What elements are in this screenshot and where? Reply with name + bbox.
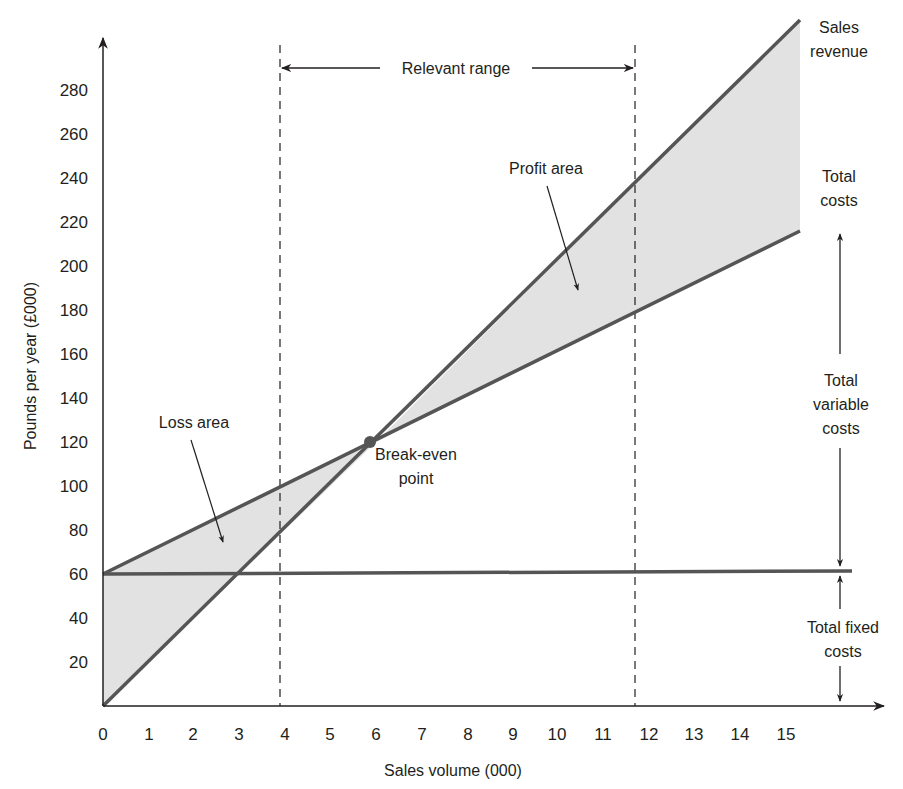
- x-tick-labels: 0 1 2 3 4 5 6 7 8 9 10 11 12 13 14 15: [98, 725, 795, 744]
- break-even-label: Break-even point: [375, 446, 457, 487]
- x-tick: 15: [777, 725, 796, 744]
- sales-revenue-label: Sales revenue: [810, 19, 868, 60]
- x-tick: 5: [325, 725, 334, 744]
- total-costs-label-line2: costs: [820, 192, 857, 209]
- total-variable-costs-indicator: Total variable costs: [813, 234, 869, 566]
- profit-area-label: Profit area: [509, 160, 583, 177]
- total-fixed-costs-indicator: Total fixed costs: [807, 576, 879, 701]
- break-even-label-line2: point: [399, 470, 434, 487]
- x-tick: 14: [731, 725, 750, 744]
- y-tick: 180: [60, 301, 88, 320]
- x-tick: 12: [640, 725, 659, 744]
- y-tick: 40: [69, 609, 88, 628]
- y-tick: 100: [60, 477, 88, 496]
- total-variable-costs-label-line2: variable: [813, 396, 869, 413]
- x-tick: 6: [371, 725, 380, 744]
- x-tick: 13: [685, 725, 704, 744]
- loss-area-label: Loss area: [159, 414, 229, 431]
- total-costs-label: Total costs: [820, 168, 857, 209]
- sales-revenue-line: [103, 20, 800, 706]
- y-tick: 240: [60, 169, 88, 188]
- x-tick: 10: [548, 725, 567, 744]
- x-tick: 11: [594, 725, 612, 744]
- y-tick: 80: [69, 521, 88, 540]
- total-variable-costs-label-line3: costs: [822, 420, 859, 437]
- x-tick: 8: [463, 725, 472, 744]
- y-axis-title: Pounds per year (£000): [22, 282, 39, 450]
- total-fixed-costs-label-line1: Total fixed: [807, 619, 879, 636]
- x-axis-title: Sales volume (000): [384, 762, 522, 779]
- y-tick: 200: [60, 257, 88, 276]
- y-tick-labels: 20 40 60 80 100 120 140 160 180 200 220 …: [60, 81, 88, 672]
- y-tick: 280: [60, 81, 88, 100]
- total-fixed-costs-label-line2: costs: [824, 643, 861, 660]
- total-variable-costs-label-line1: Total: [824, 372, 858, 389]
- sales-revenue-label-line2: revenue: [810, 43, 868, 60]
- total-costs-line: [103, 231, 800, 574]
- y-tick: 220: [60, 213, 88, 232]
- relevant-range-label: Relevant range: [402, 60, 511, 77]
- x-tick: 3: [234, 725, 243, 744]
- x-tick: 4: [280, 725, 289, 744]
- sales-revenue-label-line1: Sales: [819, 19, 859, 36]
- x-tick: 7: [417, 725, 426, 744]
- y-tick: 20: [69, 653, 88, 672]
- y-tick: 160: [60, 345, 88, 364]
- y-tick: 120: [60, 433, 88, 452]
- total-costs-label-line1: Total: [822, 168, 856, 185]
- y-tick: 260: [60, 125, 88, 144]
- break-even-chart: Relevant range 20 40 60 80 100 120 140 1…: [0, 0, 903, 789]
- x-tick: 1: [144, 725, 153, 744]
- y-tick: 60: [69, 565, 88, 584]
- break-even-label-line1: Break-even: [375, 446, 457, 463]
- x-tick: 9: [508, 725, 517, 744]
- y-tick: 140: [60, 389, 88, 408]
- x-tick: 0: [98, 725, 107, 744]
- x-tick: 2: [188, 725, 197, 744]
